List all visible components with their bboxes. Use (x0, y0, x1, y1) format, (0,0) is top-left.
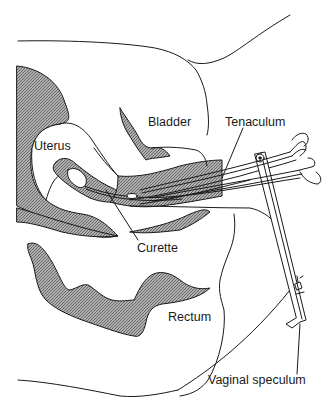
label-uterus: Uterus (34, 140, 71, 153)
perineum-outline (18, 380, 178, 397)
label-bladder: Bladder (148, 116, 191, 129)
label-rectum: Rectum (168, 311, 211, 324)
speculum-leader (297, 324, 300, 374)
label-tenaculum: Tenaculum (225, 116, 285, 129)
vaginal-wall-lower (130, 210, 210, 233)
pubic-outline (188, 15, 290, 64)
label-vaginal-speculum: Vaginal speculum (208, 374, 306, 387)
cervical-os (127, 194, 137, 199)
label-curette: Curette (137, 242, 178, 255)
pelvic-curettage-diagram (0, 0, 329, 417)
rectum-outline (180, 214, 235, 396)
tenaculum-handle (290, 142, 315, 170)
